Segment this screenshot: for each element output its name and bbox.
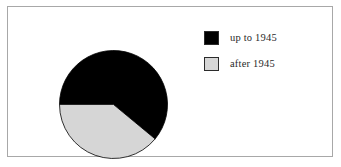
legend-swatch-black-icon <box>204 31 219 45</box>
legend-swatch-gray-icon <box>204 57 219 71</box>
pie-chart-plot-area <box>59 50 168 159</box>
pie-chart-svg <box>59 50 168 159</box>
chart-legend: up to 1945 after 1945 <box>204 28 334 80</box>
legend-label-up-to-1945: up to 1945 <box>230 32 277 44</box>
figure-frame: up to 1945 after 1945 <box>7 6 333 157</box>
pie-chart-figure: up to 1945 after 1945 <box>0 0 341 167</box>
legend-item-up-to-1945[interactable]: up to 1945 <box>204 28 334 48</box>
legend-label-after-1945: after 1945 <box>230 58 275 70</box>
legend-item-after-1945[interactable]: after 1945 <box>204 54 334 74</box>
